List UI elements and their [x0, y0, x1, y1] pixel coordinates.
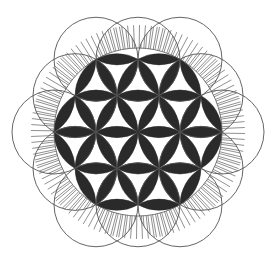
flower-of-life-diagram: [0, 0, 278, 266]
geometry-figure: [0, 0, 278, 266]
